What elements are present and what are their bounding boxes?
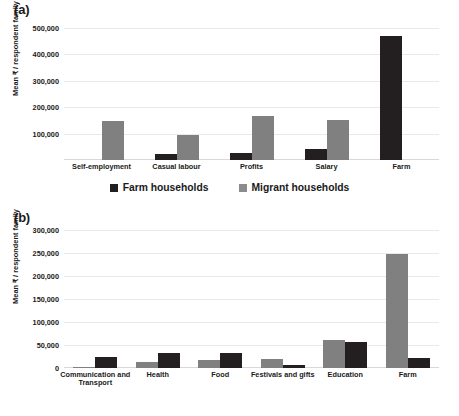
panel-a-bar (327, 120, 349, 160)
panel-b-bar-group: Food (189, 230, 252, 368)
panel-a: (a) Mean ₹ / respondent family 100,00020… (0, 0, 459, 208)
panel-b-y-tick-label: 300,000 (33, 226, 59, 235)
panel-a-bars (214, 28, 289, 160)
panel-b-plot-area: 050,000100,000150,000200,000250,000300,0… (64, 230, 439, 368)
panel-b-bars (127, 230, 190, 368)
panel-a-bar-group: Farm (364, 28, 439, 160)
panel-b: (b) Mean ₹ / respondent family 050,00010… (0, 208, 459, 416)
panel-a-bar-group: Casual labour (139, 28, 214, 160)
panel-a-y-tick-label: 200,000 (33, 103, 59, 112)
panel-a-bar (380, 36, 402, 160)
figure-two-panel-bar-charts: (a) Mean ₹ / respondent family 100,00020… (0, 0, 459, 416)
panel-b-bar-groups: Communication and TransportHealthFoodFes… (64, 230, 439, 368)
panel-b-y-axis-title: Mean ₹ / respondent family (11, 196, 20, 318)
panel-b-bars (252, 230, 315, 368)
panel-b-bar (261, 359, 283, 368)
panel-a-bar (177, 135, 199, 160)
panel-a-legend: Farm households Migrant households (0, 182, 459, 193)
panel-b-y-tick-label: 200,000 (33, 272, 59, 281)
panel-a-y-tick-label: 300,000 (33, 76, 59, 85)
panel-a-bar (230, 153, 252, 160)
panel-b-bar (95, 357, 117, 368)
panel-b-bar-group: Education (314, 230, 377, 368)
panel-a-x-tick-label: Farm (354, 163, 450, 171)
panel-a-bars (64, 28, 139, 160)
panel-b-bar (158, 353, 180, 368)
panel-b-bar (386, 254, 408, 368)
panel-a-bar-groups: Self-employmentCasual labourProfitsSalar… (64, 28, 439, 160)
panel-b-bars (314, 230, 377, 368)
panel-b-bar-group: Farm (377, 230, 440, 368)
panel-a-y-axis-title: Mean ₹ / respondent family (11, 0, 20, 110)
panel-a-bar (102, 121, 124, 160)
panel-a-bars (364, 28, 439, 160)
panel-a-plot-area: 100,000200,000300,000400,000500,000 Self… (64, 28, 439, 160)
panel-a-y-tick-label: 500,000 (33, 24, 59, 33)
panel-b-bars (189, 230, 252, 368)
panel-b-bar (73, 367, 95, 368)
panel-b-bar-group: Health (127, 230, 190, 368)
panel-b-bar (198, 360, 220, 368)
panel-b-bars (64, 230, 127, 368)
panel-b-y-tick-label: 250,000 (33, 249, 59, 258)
panel-b-x-tick-label: Farm (360, 371, 456, 379)
panel-a-bars (139, 28, 214, 160)
panel-a-y-tick-label: 400,000 (33, 50, 59, 59)
legend-item-migrant-households: Migrant households (239, 182, 350, 193)
panel-b-bar (408, 358, 430, 368)
panel-a-bar (252, 116, 274, 160)
panel-a-y-tick-label: 100,000 (33, 129, 59, 138)
panel-b-bar (220, 353, 242, 368)
panel-b-bar-group: Festivals and gifts (252, 230, 315, 368)
legend-label-farm-households: Farm households (123, 182, 209, 193)
panel-a-bar-group: Self-employment (64, 28, 139, 160)
panel-b-bar-group: Communication and Transport (64, 230, 127, 368)
panel-b-bar (323, 340, 345, 368)
panel-a-bar (155, 154, 177, 160)
panel-b-bar (136, 362, 158, 368)
panel-b-bar (283, 365, 305, 368)
panel-a-bar-group: Salary (289, 28, 364, 160)
panel-b-y-tick-label: 100,000 (33, 318, 59, 327)
legend-swatch-migrant-icon (239, 184, 247, 192)
legend-label-migrant-households: Migrant households (252, 182, 350, 193)
panel-a-bars (289, 28, 364, 160)
legend-swatch-farm-icon (110, 184, 118, 192)
panel-a-bar-group: Profits (214, 28, 289, 160)
panel-b-bar (345, 342, 367, 368)
panel-b-y-tick-label: 150,000 (33, 295, 59, 304)
panel-b-y-tick-label: 50,000 (37, 341, 59, 350)
legend-item-farm-households: Farm households (110, 182, 209, 193)
panel-b-bars (377, 230, 440, 368)
panel-a-bar (305, 149, 327, 160)
